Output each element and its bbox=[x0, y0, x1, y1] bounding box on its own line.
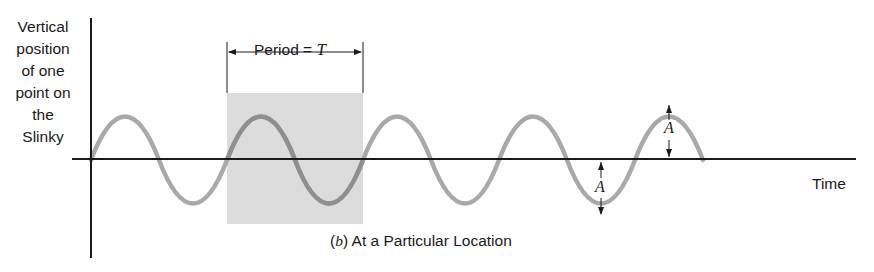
y-axis-label: Vertical position of one point on the Sl… bbox=[2, 16, 84, 148]
amplitude-label-trough: A bbox=[595, 178, 605, 196]
period-symbol: T bbox=[316, 40, 325, 59]
y-axis-label-line: Vertical bbox=[2, 16, 84, 38]
period-arrow-right-icon bbox=[354, 49, 362, 55]
x-axis-label: Time bbox=[812, 175, 846, 193]
caption-letter: b bbox=[335, 232, 343, 249]
period-arrow-left-icon bbox=[228, 49, 236, 55]
amplitude-arrow-down-icon bbox=[666, 149, 672, 157]
amplitude-label-crest: A bbox=[664, 119, 674, 137]
caption-text: At a Particular Location bbox=[352, 232, 512, 249]
y-axis-label-line: position bbox=[2, 38, 84, 60]
period-label-text: Period = bbox=[254, 41, 316, 58]
y-axis-label-line: Slinky bbox=[2, 126, 84, 148]
y-axis-label-line: the bbox=[2, 104, 84, 126]
amplitude-arrow-up-icon bbox=[666, 105, 672, 113]
amplitude-arrow-up-icon bbox=[598, 162, 604, 170]
figure-caption: (b) At a Particular Location bbox=[330, 232, 512, 250]
period-label: Period = T bbox=[254, 40, 326, 60]
y-axis-label-line: of one bbox=[2, 60, 84, 82]
y-axis-label-line: point on bbox=[2, 82, 84, 104]
amplitude-arrow-down-icon bbox=[598, 207, 604, 215]
